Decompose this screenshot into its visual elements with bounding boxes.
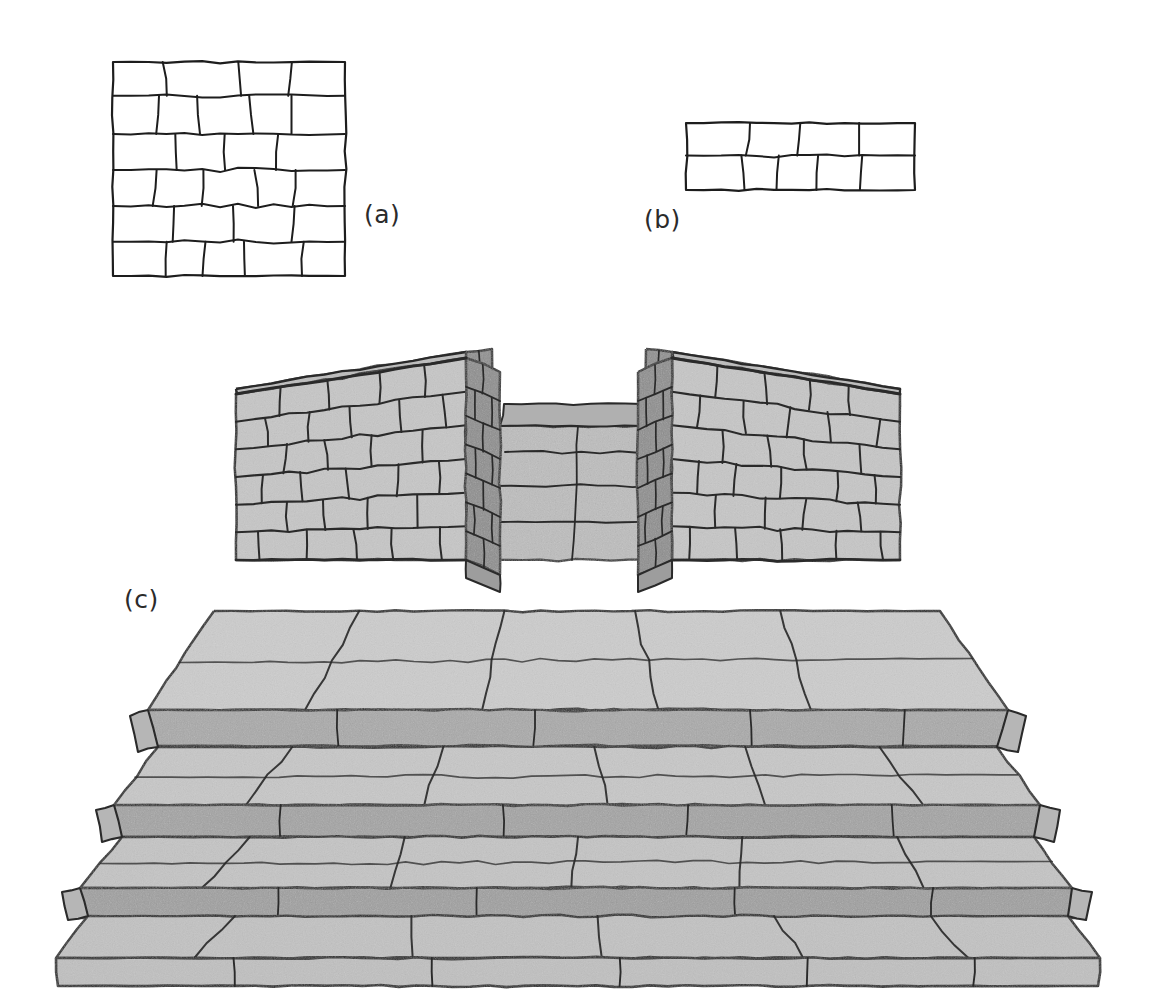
panel-a-label: (a)	[364, 200, 400, 229]
left-parapet-wall	[235, 349, 501, 575]
right-parapet-wall	[637, 349, 902, 575]
panel-a-wall-elevation	[112, 61, 346, 277]
panel-c-label: (c)	[124, 585, 159, 614]
panel-b-label: (b)	[644, 205, 681, 234]
figure-plate	[0, 0, 1153, 999]
stepped-platform-body	[56, 610, 1100, 987]
panel-b-wall-elevation	[686, 122, 915, 191]
